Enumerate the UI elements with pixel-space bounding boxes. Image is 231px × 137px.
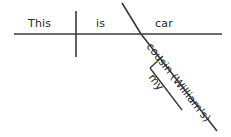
predicate-slant-line — [122, 3, 141, 34]
word-subject: This — [28, 18, 51, 29]
word-linking-verb: is — [96, 18, 105, 29]
sentence-diagram-canvas: This is car cousin (William's) my — [0, 0, 231, 137]
word-predicate-nominative: car — [155, 18, 173, 29]
